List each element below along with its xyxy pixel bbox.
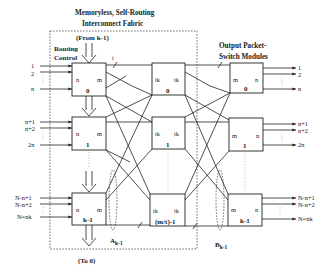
input-lines-module-k-1: N-n+1 N-n+2 N=nk (15, 194, 72, 220)
input-label: 2n (28, 141, 35, 148)
module-port-label: tk (153, 207, 159, 214)
stage2-links (185, 65, 230, 226)
group-a-label: Ak-1 (110, 237, 123, 246)
input-label: N-n+2 (15, 201, 32, 208)
output-title-line1: Output Packet- (219, 42, 267, 50)
input-label: 2 (31, 70, 34, 77)
input-label: n (31, 85, 35, 92)
module-port-label: m (233, 76, 238, 83)
input-module-k-1: n m k-1 (72, 193, 106, 225)
module-port-label: m (231, 206, 236, 213)
group-b-label: Bk-1 (215, 241, 228, 250)
input-label: N=nk (17, 213, 32, 220)
output-lines-module-k-1: N-n+1 N-n+2 N=nk (262, 194, 315, 222)
middle-module-m-t-1: tk tk (m/t)-1 (150, 194, 185, 226)
routing-arrow-into-k-1 (82, 171, 96, 192)
routing-control-label-2: Control (54, 54, 77, 62)
output-label: 1 (298, 64, 301, 71)
module-port-label: tk (174, 76, 180, 83)
input-lines-module-0: 1 2 n (31, 62, 72, 92)
middle-module-1: tk tk 1 (152, 117, 185, 149)
module-port-label: m (97, 130, 102, 137)
module-port-label: tk (174, 130, 180, 137)
module-port-label: tk (174, 207, 180, 214)
output-label: n+1 (298, 120, 308, 127)
output-label: N-n+2 (298, 201, 315, 208)
routing-arrow-0-to-1 (82, 96, 96, 116)
output-label: n+2 (298, 127, 308, 134)
fabric-title-line1: Memoryless, Self-Routing (75, 9, 155, 17)
output-title-line2: Switch Modules (219, 53, 268, 61)
output-lines-module-1: n+1 n+2 2n (263, 120, 308, 148)
fabric-title: Memoryless, Self-Routing Interconnect Fa… (75, 9, 155, 28)
input-label: N-n+1 (15, 194, 32, 201)
module-port-label: m (232, 132, 237, 139)
module-port-label: tk (155, 76, 161, 83)
module-id: 1 (86, 141, 90, 149)
output-module-0: m n 0 (230, 63, 263, 93)
input-module-1: n m 1 (72, 117, 106, 150)
input-label: n+2 (25, 125, 35, 132)
switch-fabric-diagram: Memoryless, Self-Routing Interconnect Fa… (0, 0, 331, 273)
output-label: N=nk (298, 215, 313, 222)
module-id: k-1 (83, 216, 93, 224)
module-port-label: tk (155, 130, 161, 137)
output-modules-title: Output Packet- Switch Modules (219, 42, 268, 61)
module-id: k-1 (240, 217, 250, 225)
output-label: n (298, 85, 302, 92)
middle-module-0: tk tk 0 (152, 63, 185, 95)
output-label: 2n (298, 141, 305, 148)
from-k-1-label: (From k-1) (76, 34, 109, 42)
output-module-k-1: m n k-1 (228, 194, 262, 226)
input-module-0: n m 0 (72, 63, 106, 96)
to-0-label: (To 0) (78, 257, 96, 265)
routing-control-label-1: Routing (54, 45, 79, 53)
output-module-1: m n 1 (229, 118, 263, 151)
module-port-label: m (97, 206, 102, 213)
output-label: N-n+1 (298, 194, 315, 201)
group-b-ellipse (216, 170, 224, 230)
module-id: 0 (166, 87, 170, 95)
routing-arrow-to-0 (82, 225, 96, 246)
module-port-label: m (97, 76, 102, 83)
input-label: n+1 (25, 118, 35, 125)
fabric-title-line2: Interconnect Fabric (82, 20, 144, 28)
bus-width-label: t (112, 54, 114, 61)
routing-arrow-from-k-1 (82, 43, 96, 63)
module-id: (m/t)-1 (155, 218, 176, 226)
input-lines-module-1: n+1 n+2 2n (25, 118, 72, 148)
module-id: 0 (86, 87, 90, 95)
module-id: 1 (243, 142, 247, 150)
output-label: 2 (298, 71, 301, 78)
module-id: 1 (166, 141, 170, 149)
module-id: 0 (244, 85, 248, 93)
input-label: 1 (31, 62, 34, 69)
output-lines-module-0: 1 2 n (263, 64, 302, 92)
stage1-links (106, 65, 152, 225)
